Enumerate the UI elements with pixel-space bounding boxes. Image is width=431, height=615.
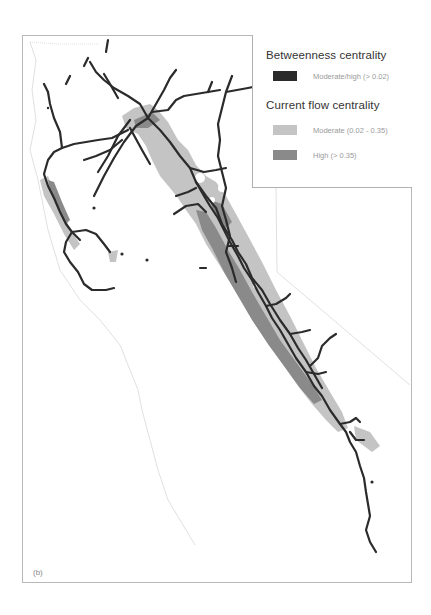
- legend-item-flow-high: High (> 0.35): [273, 150, 357, 160]
- map-legend: Betweenness centrality Moderate/high (> …: [252, 35, 412, 188]
- legend-title-betweenness: Betweenness centrality: [266, 49, 386, 61]
- legend-label: Moderate/high (> 0.02): [313, 72, 389, 81]
- legend-item-flow-moderate: Moderate (0.02 - 0.35): [273, 125, 388, 135]
- legend-item-betweenness-moderate-high: Moderate/high (> 0.02): [273, 71, 389, 81]
- panel-label: (b): [33, 568, 43, 577]
- legend-label: High (> 0.35): [313, 151, 357, 160]
- swatch-dark: [273, 71, 297, 81]
- legend-label: Moderate (0.02 - 0.35): [313, 126, 388, 135]
- legend-title-current-flow: Current flow centrality: [266, 99, 380, 111]
- swatch-light: [273, 125, 297, 135]
- swatch-mid: [273, 150, 297, 160]
